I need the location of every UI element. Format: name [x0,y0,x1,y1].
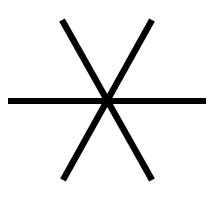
asterisk-icon [0,0,215,200]
asterisk-glyph [0,0,215,200]
